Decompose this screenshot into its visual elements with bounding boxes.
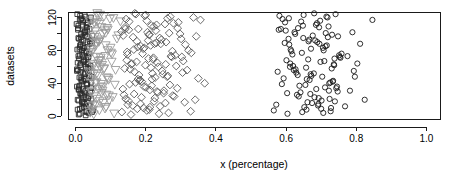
data-point: [318, 59, 323, 64]
data-point: [281, 76, 286, 81]
data-point: [370, 17, 375, 22]
data-point: [301, 35, 306, 40]
series-circles: [271, 11, 375, 117]
data-point: [322, 85, 327, 90]
x-tick-label: 0.8: [349, 133, 363, 144]
data-point: [194, 74, 202, 82]
data-point: [284, 58, 289, 63]
x-axis-title: x (percentage): [220, 158, 288, 170]
data-point: [345, 54, 350, 59]
data-point: [129, 33, 137, 41]
data-point: [191, 96, 199, 104]
data-point: [303, 65, 308, 70]
data-point: [299, 50, 304, 55]
data-point: [181, 98, 189, 106]
x-axis: 0.00.20.40.60.81.0: [69, 127, 434, 144]
data-point: [312, 11, 317, 16]
data-point: [279, 82, 284, 87]
data-point: [130, 90, 138, 98]
scatter-plot-figure: 0.00.20.40.60.81.0 04080120 x (percentag…: [0, 0, 457, 186]
data-point: [327, 96, 332, 101]
y-axis: 04080120: [48, 9, 62, 119]
data-point: [335, 34, 340, 39]
y-tick-label: 40: [48, 77, 59, 89]
data-point: [328, 105, 333, 110]
data-point: [165, 109, 173, 117]
data-point: [286, 36, 291, 41]
x-tick-label: 1.0: [420, 133, 434, 144]
data-point: [285, 111, 290, 116]
data-point: [314, 86, 319, 91]
data-point: [335, 89, 340, 94]
data-point: [178, 53, 186, 61]
data-point: [127, 111, 135, 119]
y-tick-label: 80: [48, 44, 59, 56]
data-point: [161, 99, 169, 107]
x-tick-label: 0.4: [209, 133, 223, 144]
data-point: [156, 102, 164, 110]
data-point: [352, 74, 357, 79]
data-point: [162, 60, 170, 68]
data-point: [138, 93, 146, 101]
data-point: [290, 52, 295, 57]
data-point: [308, 46, 313, 51]
data-point: [362, 97, 367, 102]
x-tick-label: 0.6: [279, 133, 293, 144]
data-point: [118, 108, 126, 116]
plot-frame: [69, 13, 441, 120]
data-point: [271, 108, 276, 113]
data-point: [358, 41, 363, 46]
data-point: [165, 29, 173, 37]
data-point: [201, 79, 209, 87]
data-point: [110, 110, 119, 118]
data-point: [274, 102, 279, 107]
data-point: [154, 63, 162, 71]
data-point: [350, 30, 355, 35]
x-tick-label: 0.0: [69, 133, 83, 144]
x-tick-label: 0.2: [139, 133, 153, 144]
data-point: [155, 110, 163, 118]
data-point: [285, 91, 290, 96]
data-point: [303, 82, 308, 87]
data-point: [283, 28, 288, 33]
data-point: [134, 25, 142, 33]
plot-box: [69, 13, 441, 120]
series-triangles: [84, 10, 124, 119]
data-point: [332, 99, 337, 104]
data-point: [110, 81, 119, 89]
data-point: [277, 13, 282, 18]
data-point: [306, 57, 311, 62]
data-point: [166, 81, 174, 89]
data-point: [187, 49, 195, 57]
data-point: [342, 104, 347, 109]
data-point: [173, 84, 181, 92]
data-point: [300, 109, 305, 114]
y-tick-label: 0: [48, 113, 59, 119]
data-point: [172, 62, 180, 70]
data-point: [301, 12, 306, 17]
data-point: [329, 32, 334, 37]
data-point: [355, 61, 360, 66]
data-point: [326, 24, 331, 29]
y-axis-title: datasets: [4, 46, 16, 86]
data-point: [297, 83, 302, 88]
data-points-layer: [74, 9, 375, 118]
data-point: [275, 69, 280, 74]
data-point: [190, 14, 198, 22]
data-point: [197, 16, 205, 24]
data-point: [287, 42, 292, 47]
data-point: [187, 107, 195, 115]
data-point: [192, 32, 200, 40]
series-diamonds: [118, 9, 209, 118]
data-point: [295, 26, 300, 31]
plot-canvas: 0.00.20.40.60.81.0 04080120 x (percentag…: [0, 0, 457, 186]
data-point: [347, 88, 352, 93]
data-point: [351, 68, 356, 73]
data-point: [320, 74, 325, 79]
data-point: [179, 57, 187, 65]
data-point: [111, 66, 120, 74]
y-tick-label: 120: [48, 9, 59, 26]
data-point: [137, 100, 145, 108]
